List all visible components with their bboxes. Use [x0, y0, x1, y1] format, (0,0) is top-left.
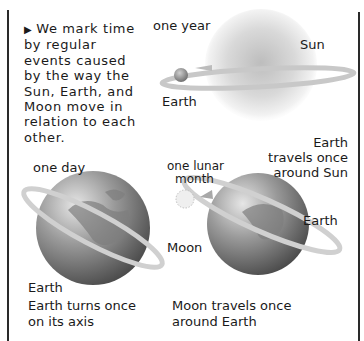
- small-earth-icon: [174, 68, 188, 82]
- moon-label: Moon: [167, 240, 202, 255]
- month-caption-line2: around Earth: [172, 314, 257, 329]
- month-earth-label: Earth: [303, 213, 338, 228]
- earth-rotation-illustration: [17, 171, 170, 285]
- one-day-heading: one day: [33, 160, 85, 175]
- year-caption-line2: travels once: [268, 150, 348, 165]
- year-caption-line3: around Sun: [273, 165, 348, 180]
- year-earth-label: Earth: [162, 94, 197, 109]
- month-caption-line1: Moon travels once: [172, 298, 291, 313]
- day-caption-line2: on its axis: [28, 314, 94, 329]
- lunar-month-heading-line2: month: [175, 173, 214, 186]
- sun-label: Sun: [300, 37, 325, 52]
- year-caption-line1: Earth: [313, 135, 348, 150]
- moon-icon: [176, 190, 194, 208]
- day-earth-label: Earth: [28, 280, 63, 295]
- day-caption-line1: Earth turns once: [28, 298, 136, 313]
- one-year-heading: one year: [153, 18, 210, 33]
